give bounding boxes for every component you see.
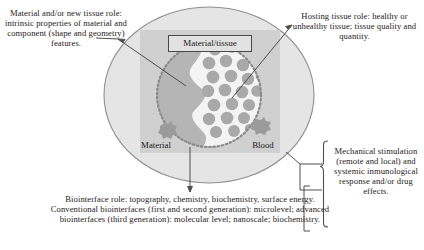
label-material-tissue: Material/tissue [168, 35, 252, 52]
figure-container: Material and/or new tissue role: intrins… [0, 0, 424, 250]
label-blood: Blood [242, 140, 284, 150]
arrowhead-biointerface [188, 186, 193, 192]
callout-material-role: Material and/or new tissue role: intrins… [4, 8, 128, 48]
callout-biointerface-role: Biointerface role: topography, chemistry… [46, 194, 334, 224]
callout-mechanical-stimulation: Mechanical stimulation (remote and local… [330, 146, 422, 196]
callout-hosting-tissue: Hosting tissue role: healthy or unhealth… [288, 11, 421, 41]
brace-connectors [286, 152, 322, 190]
label-material: Material [131, 140, 181, 150]
